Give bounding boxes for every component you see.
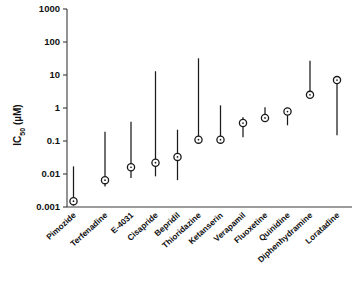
data-marker-center-dot [198, 139, 200, 141]
y-tick-label: 0.1 [47, 135, 61, 146]
data-point-group [333, 77, 340, 136]
data-point-group [174, 130, 181, 180]
data-point-group [195, 58, 202, 143]
data-marker-center-dot [220, 139, 222, 141]
data-marker-center-dot [242, 122, 244, 124]
data-marker-center-dot [130, 166, 132, 168]
data-point-group [239, 117, 246, 137]
data-marker-center-dot [104, 179, 106, 181]
y-tick-label: 0.001 [36, 201, 60, 212]
data-marker-center-dot [309, 94, 311, 96]
y-tick-label: 0.01 [42, 168, 61, 179]
data-marker-center-dot [177, 156, 179, 158]
data-point-group [261, 107, 268, 121]
data-marker-center-dot [73, 200, 75, 202]
y-tick-label: 1000 [39, 3, 60, 14]
y-tick-label: 1 [55, 102, 61, 113]
svg-text:IC50 (µM): IC50 (µM) [12, 104, 26, 145]
data-point-group [70, 166, 77, 205]
data-point-group [284, 108, 291, 125]
data-marker-center-dot [155, 162, 157, 164]
data-marker-center-dot [336, 79, 338, 81]
data-point-group [101, 132, 108, 187]
data-point-group [127, 122, 134, 178]
y-tick-label: 10 [49, 69, 60, 80]
y-axis-ticks: 10001001010.10.010.001 [36, 3, 67, 212]
ic50-scatter-chart: IC50 (µM) 10001001010.10.010.001 Pimozid… [0, 0, 363, 291]
data-point-group [152, 71, 159, 176]
data-point-group [217, 105, 224, 143]
data-marker-center-dot [264, 117, 266, 119]
x-axis-category-labels: PimozideTerfenadineE-4031CisaprideBeprid… [44, 210, 342, 265]
chart-canvas: IC50 (µM) 10001001010.10.010.001 Pimozid… [0, 0, 363, 291]
data-series [70, 58, 341, 205]
y-axis-title: IC50 (µM) [12, 104, 26, 145]
data-marker-center-dot [287, 111, 289, 113]
y-tick-label: 100 [44, 36, 60, 47]
data-point-group [306, 61, 313, 99]
axis-lines [67, 9, 352, 207]
